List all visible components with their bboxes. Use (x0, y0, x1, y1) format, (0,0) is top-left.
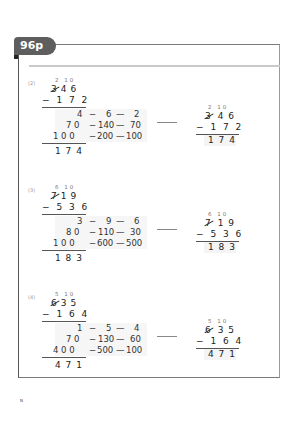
sum-line (42, 321, 86, 322)
step-row: 1 0 0 − 600 — 500 (48, 238, 140, 249)
arrow-icon (157, 336, 177, 337)
final-carry: 2 10 (208, 104, 228, 110)
margin-mark: N (20, 398, 23, 403)
subtrahend: − 1 7 2 (42, 95, 89, 105)
answer: 1 7 4 (55, 146, 83, 156)
corner-mark (14, 55, 18, 59)
step-row: 1 0 0 − 200 — 100 (48, 131, 140, 142)
step-rows: 3 − 9 — 6 8 0 − 110 — 30 1 0 0 − 600 — 5… (48, 216, 140, 249)
problem-number: (2) (28, 80, 35, 86)
answer-line (42, 250, 86, 251)
minuend: 635 (51, 298, 80, 308)
final-minuend: 63 5 (205, 325, 235, 335)
minuend: 346 (51, 84, 80, 94)
final-carry: 5 10 (208, 318, 228, 324)
step-row: 7 0 − 130 — 60 (48, 334, 140, 345)
step-row: 4 0 0 − 500 — 100 (48, 345, 140, 356)
step-rows: 4 − 6 — 2 7 0 − 140 — 70 1 0 0 − 200 — 1… (48, 109, 140, 142)
page-number-tab: 96p (14, 37, 56, 55)
minuend-rest: 46 (61, 84, 80, 94)
header-rule (29, 65, 280, 67)
step-row: 8 0 − 110 — 30 (48, 227, 140, 238)
final-minuend: 71 9 (205, 218, 235, 228)
subtrahend: − 1 6 4 (42, 309, 89, 319)
borrow-carry: 2 10 (55, 77, 75, 83)
final-answer: 1 7 4 (208, 135, 236, 145)
step-rows: 1 − 5 — 4 7 0 − 130 — 60 4 0 0 − 500 — 1… (48, 323, 140, 356)
borrow-carry: 6 10 (55, 184, 75, 190)
final-subtrahend: − 1 6 4 (196, 336, 243, 346)
step-row: 1 − 5 — 4 (48, 323, 140, 334)
step-row: 7 0 − 140 — 70 (48, 120, 140, 131)
final-carry: 6 10 (208, 211, 228, 217)
subtrahend: − 5 3 6 (42, 202, 89, 212)
struck-digit: 3 (51, 84, 61, 94)
step-row: 4 − 6 — 2 (48, 109, 140, 120)
sum-line (42, 214, 86, 215)
final-subtrahend: − 1 7 2 (196, 122, 243, 132)
final-minuend: 34 6 (205, 111, 235, 121)
answer-line (42, 143, 86, 144)
problem-number: (3) (28, 187, 35, 193)
minuend: 719 (51, 191, 80, 201)
problem-number: (4) (28, 294, 35, 300)
borrow-carry: 5 10 (55, 291, 75, 297)
arrow-icon (157, 229, 177, 230)
final-answer: 4 7 1 (208, 349, 236, 359)
arrow-icon (157, 122, 177, 123)
step-row: 3 − 9 — 6 (48, 216, 140, 227)
answer: 1 8 3 (55, 253, 83, 263)
answer: 4 7 1 (55, 360, 83, 370)
answer-line (42, 357, 86, 358)
final-answer: 1 8 3 (208, 242, 236, 252)
sum-line (42, 107, 86, 108)
final-subtrahend: − 5 3 6 (196, 229, 243, 239)
